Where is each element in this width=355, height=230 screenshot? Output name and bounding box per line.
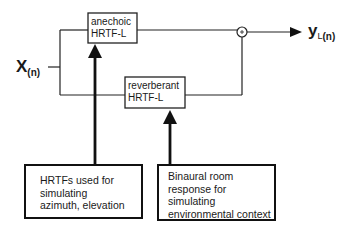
input-signal-label: X(n) [16, 57, 40, 79]
reverberant-hrtf-label: reverberant HRTF-L [128, 80, 179, 103]
anechoic-hrtf-label: anechoic HRTF-L [91, 16, 131, 39]
hrtf-note-text: HRTFs used for simulating azimuth, eleva… [40, 174, 125, 212]
output-signal-label: yL(n) [308, 21, 335, 43]
brir-note-text: Binaural room response for simulating en… [168, 170, 271, 220]
output-arrowhead [290, 27, 302, 37]
